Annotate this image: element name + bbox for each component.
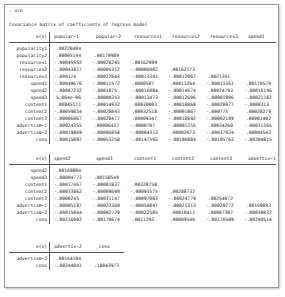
matrix-cell: -.00053258: [92, 136, 120, 143]
row-label: spend3: [9, 94, 47, 101]
row-label: _cons: [9, 216, 47, 223]
matrix-cell: -.00016196: [244, 87, 272, 94]
matrix-cell: -.00015897: [54, 136, 82, 143]
matrix-cell: -.00019869: [54, 129, 82, 136]
matrix-cell: .00032518: [132, 108, 157, 115]
matrix-cell: -.00004313: [130, 129, 158, 136]
matrix-cell: -.00093575: [130, 188, 158, 195]
column-header: popular~1: [54, 32, 79, 41]
row-label-divider: [49, 242, 50, 270]
row-label: advertism~1: [9, 202, 47, 209]
column-header: advertis~1: [248, 154, 276, 163]
matrix-cell: -.00021313: [168, 202, 196, 209]
matrix-cell: -.00021782: [244, 94, 272, 101]
matrix-cell: -.00054847: [130, 202, 158, 209]
matrix-cell: .00220484: [56, 45, 81, 52]
matrix-cell: -.00204815: [244, 136, 272, 143]
matrix-cell: -.00006858: [92, 129, 120, 136]
row-label-divider: [49, 154, 50, 224]
matrix-cell: .00034268: [208, 122, 233, 129]
matrix-cell: -.00049676: [54, 80, 82, 87]
column-header: content1: [134, 154, 156, 163]
matrix-cell: -.00013361: [206, 80, 234, 87]
matrix-cell: -.00244041: [54, 262, 82, 269]
matrix-cell: -.00170674: [92, 216, 120, 223]
matrix-cell: -.00006082: [130, 66, 158, 73]
matrix-cell: -.00015044: [54, 209, 82, 216]
matrix-cell: -.00007232: [54, 87, 82, 94]
matrix-cell: .00028279: [246, 108, 271, 115]
column-header: content3: [210, 154, 232, 163]
matrix-cell: -.00000353: [92, 94, 120, 101]
matrix-cell: .00001402: [246, 115, 271, 122]
matrix-cell: -.00196884: [168, 136, 196, 143]
matrix-cell: -.00024355: [54, 122, 82, 129]
matrix-cell: .00288732: [170, 188, 195, 195]
row-label: spend2: [9, 167, 47, 174]
matrix-cell: .00164194: [56, 255, 81, 262]
row-label: resources3: [9, 73, 47, 80]
matrix-cell: -.00176589: [206, 216, 234, 223]
matrix-cell: -.00001837: [92, 181, 120, 188]
matrix-cell: -.00012606: [168, 94, 196, 101]
row-label: popularity1: [9, 45, 47, 52]
row-label: _cons: [9, 262, 47, 269]
row-label: spend2: [9, 87, 47, 94]
matrix-cell: .00170579: [246, 80, 271, 87]
matrix-cell: .00004543: [246, 129, 271, 136]
matrix-cell: -.0000707: [130, 122, 155, 129]
row-label: content2: [9, 188, 47, 195]
matrix-cell: .00162999: [132, 59, 157, 66]
matrix-cell: -.00037924: [206, 129, 234, 136]
column-header: spend3: [96, 154, 113, 163]
column-header: resources3: [210, 32, 238, 41]
matrix-cell: .00045171: [56, 101, 81, 108]
matrix-cell: -.00022643: [92, 73, 120, 80]
matrix-cell: -.00147593: [130, 136, 158, 143]
matrix-cell: .00162173: [170, 66, 195, 73]
matrix-cell: -.00005312: [92, 66, 120, 73]
row-label: spend3: [9, 174, 47, 181]
matrix-cell: -.00012067: [168, 73, 196, 80]
row-label: advertism~2: [9, 129, 47, 136]
row-label: resources2: [9, 66, 47, 73]
matrix-cell: -.00028477: [92, 115, 120, 122]
row-label: advertism~2: [9, 255, 47, 262]
row-label: content1: [9, 101, 47, 108]
matrix-cell: -.00033862: [54, 188, 82, 195]
matrix-cell: -.00018068: [168, 101, 196, 108]
matrix-cell: -.00009699: [92, 188, 120, 195]
matrix-cell: -.00011572: [92, 80, 120, 87]
matrix-cell: -.0000313: [244, 101, 269, 108]
matrix-cell: -.00014674: [168, 87, 196, 94]
matrix-block-1: e(V)popular~1popular~2resources1resource…: [9, 32, 273, 143]
matrix-cell: .0000587: [132, 80, 154, 87]
matrix-cell: -.00022585: [130, 209, 158, 216]
matrix-cell: -.00043817: [54, 66, 82, 73]
matrix-cell: -.00028043: [92, 108, 120, 115]
matrix-cell: .00009347: [132, 115, 157, 122]
matrix-cell: -.00030032: [244, 209, 272, 216]
matrix-cell: .00158549: [94, 174, 119, 181]
matrix-corner-label: e(V): [9, 154, 47, 163]
row-label: content2: [9, 108, 47, 115]
matrix-cell: .0011293: [132, 216, 154, 223]
column-header: popular~2: [96, 32, 121, 41]
matrix-cell: .00254072: [208, 195, 233, 202]
matrix-cell: -.00031147: [92, 195, 120, 202]
row-label-divider: [49, 32, 50, 144]
matrix-cell: .00006437: [94, 122, 119, 129]
matrix-cell: -.00005187: [54, 202, 82, 209]
matrix-cell: 5.064e-06: [56, 94, 81, 101]
matrix-cell: .00169893: [246, 202, 271, 209]
column-header: spend1: [248, 32, 265, 41]
column-header: resources1: [134, 32, 162, 41]
matrix-cell: -.00011365: [244, 122, 272, 129]
matrix-cell: -.00002109: [206, 115, 234, 122]
matrix-cell: .00328758: [132, 181, 157, 188]
matrix-cell: -.00001867: [168, 108, 196, 115]
row-label: spend1: [9, 80, 47, 87]
matrix-cell: -.0000245: [54, 195, 79, 202]
matrix-cell: -.00016084: [130, 87, 158, 94]
matrix-cell: .00018411: [170, 209, 195, 216]
